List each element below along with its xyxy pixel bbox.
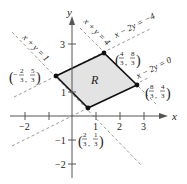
equation-label-x-minus-2y-eq-neg4: x − 2y = −4 xyxy=(111,11,156,41)
svg-text:): ) xyxy=(136,53,141,69)
x-axis-label: x xyxy=(171,110,177,122)
svg-text:,: , xyxy=(125,58,127,67)
y-tick-label: −1 xyxy=(55,135,66,146)
x-axis-arrow-icon xyxy=(159,113,168,119)
svg-text:2: 2 xyxy=(83,131,87,139)
x-tick-label: 3 xyxy=(141,121,146,132)
svg-text:): ) xyxy=(166,86,171,102)
equation-label-x-plus-y-eq-1: x + y = 1 xyxy=(20,32,52,64)
svg-text:8: 8 xyxy=(150,83,154,91)
svg-text:3: 3 xyxy=(20,76,24,84)
svg-text:4: 4 xyxy=(120,50,124,58)
svg-text:3: 3 xyxy=(150,92,154,100)
vertex-label-left: ( − 2 3 , 5 3 ) xyxy=(9,67,41,86)
region-label: R xyxy=(90,73,99,87)
region-diagram: x y −2 1 2 3 3 1 −1 −2 R ( − 2 3 , 5 3 )… xyxy=(0,0,187,184)
svg-text:3: 3 xyxy=(31,76,35,84)
equation-label-x-plus-y-eq-4: x + y = 4 xyxy=(81,16,113,48)
svg-text:,: , xyxy=(155,91,157,100)
svg-text:): ) xyxy=(36,70,41,86)
svg-text:3: 3 xyxy=(131,59,135,67)
vertex-label-bottom: ( 2 3 , 1 3 ) xyxy=(78,131,104,150)
x-tick-label: −2 xyxy=(19,121,30,132)
svg-text:3: 3 xyxy=(94,140,98,148)
svg-text:8: 8 xyxy=(131,50,135,58)
vertex-label-right: ( 8 3 , 4 3 ) xyxy=(145,83,171,102)
svg-text:3: 3 xyxy=(161,92,165,100)
svg-text:): ) xyxy=(99,134,104,150)
svg-text:,: , xyxy=(88,139,90,148)
y-axis-label: y xyxy=(66,6,72,18)
vertex-label-top: ( 4 3 , 8 3 ) xyxy=(115,50,141,69)
y-tick-label: 3 xyxy=(60,39,65,50)
svg-text:−: − xyxy=(13,70,18,79)
svg-text:4: 4 xyxy=(161,83,165,91)
y-tick-label: −2 xyxy=(55,159,66,170)
svg-text:2: 2 xyxy=(20,67,24,75)
svg-text:1: 1 xyxy=(94,131,98,139)
svg-text:3: 3 xyxy=(120,59,124,67)
svg-text:3: 3 xyxy=(83,140,87,148)
svg-text:5: 5 xyxy=(31,67,35,75)
y-tick-label: 1 xyxy=(61,87,66,98)
svg-text:,: , xyxy=(25,75,27,84)
x-tick-label: 2 xyxy=(117,121,122,132)
